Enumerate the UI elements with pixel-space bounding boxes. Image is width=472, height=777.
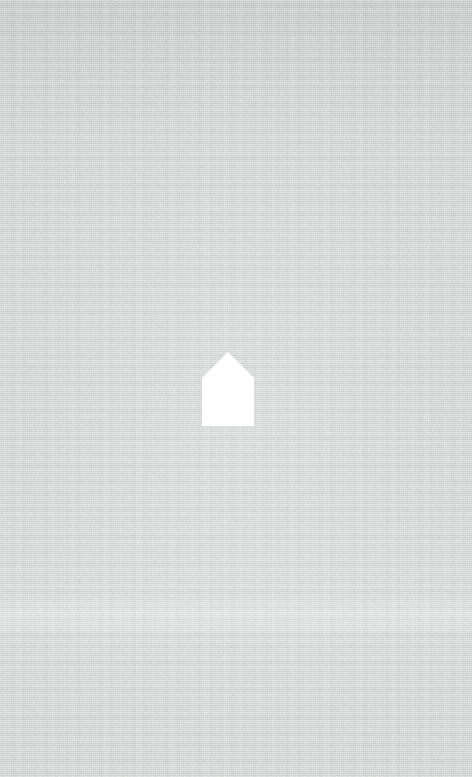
app-splash-screen <box>0 0 472 777</box>
home-icon-glyph <box>200 350 256 428</box>
home-icon-path <box>202 352 254 426</box>
home-icon <box>200 350 256 428</box>
